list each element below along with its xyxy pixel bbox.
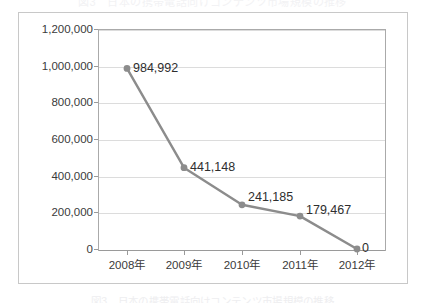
xtick-label-2008: 2008年 xyxy=(109,256,146,272)
data-point-2008 xyxy=(124,65,131,72)
data-point-2012 xyxy=(354,246,361,253)
data-label-2009: 441,148 xyxy=(190,160,235,174)
xtick-mark-2010 xyxy=(242,251,243,255)
line-chart: 1,200,000 1,000,000 800,000 600,000 400,… xyxy=(19,13,409,285)
ytick-label-1000000: 1,000,000 xyxy=(19,60,93,72)
xtick-label-2010: 2010年 xyxy=(224,256,261,272)
xtick-mark-2008 xyxy=(127,251,128,255)
data-label-2010: 241,185 xyxy=(248,190,293,204)
figure-caption: 図3 日本の携帯電話向けコンテンツ市場規模の推移 xyxy=(0,291,425,303)
figure-caption-text: 図3 日本の携帯電話向けコンテンツ市場規模の推移 xyxy=(0,293,425,303)
data-point-2011 xyxy=(297,213,304,220)
series-line xyxy=(127,68,357,249)
data-label-2008: 984,992 xyxy=(133,61,178,75)
data-point-2010 xyxy=(239,201,246,208)
figure-frame: 1,200,000 1,000,000 800,000 600,000 400,… xyxy=(18,12,408,284)
ytick-label-200000: 200,000 xyxy=(19,206,93,218)
xtick-label-2011: 2011年 xyxy=(282,256,318,272)
ytick-label-400000: 400,000 xyxy=(19,170,93,182)
data-point-2009 xyxy=(181,164,188,171)
figure-top-title-text: 図3 日本の携帯電話向けコンテンツ市場規模の推移 xyxy=(0,0,425,9)
xtick-mark-2011 xyxy=(300,251,301,255)
ytick-label-0: 0 xyxy=(19,243,93,255)
xtick-label-2009: 2009年 xyxy=(166,256,203,272)
data-label-2012: 0 xyxy=(362,241,369,255)
figure-top-title: 図3 日本の携帯電話向けコンテンツ市場規模の推移 xyxy=(0,0,425,9)
data-label-2011: 179,467 xyxy=(306,203,351,217)
ytick-label-600000: 600,000 xyxy=(19,133,93,145)
ytick-label-800000: 800,000 xyxy=(19,96,93,108)
ytick-label-1200000: 1,200,000 xyxy=(19,23,93,35)
xtick-mark-2009 xyxy=(184,251,185,255)
xtick-label-2012: 2012年 xyxy=(339,256,376,272)
